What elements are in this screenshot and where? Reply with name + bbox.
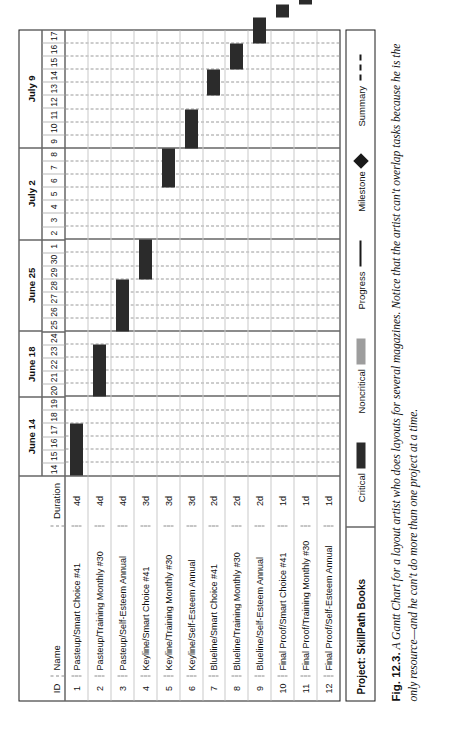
task-table: ID Name Duration 1Pasteup/Smart Choice #… bbox=[19, 475, 339, 700]
timeline-week-label: June 18 bbox=[19, 330, 41, 396]
gantt-chart: ID Name Duration 1Pasteup/Smart Choice #… bbox=[18, 29, 340, 701]
gantt-bar[interactable] bbox=[184, 109, 197, 148]
task-row[interactable]: 3Pasteup/Self-Esteem Annual4d bbox=[111, 476, 134, 700]
legend-item: Milestone bbox=[355, 155, 366, 212]
task-row[interactable]: 7Blueline/Smart Choice #412d bbox=[203, 476, 226, 700]
task-id: 1 bbox=[71, 676, 81, 700]
figure-caption: Fig. 12.3. A Gantt Chart for a layout ar… bbox=[387, 29, 420, 701]
timeline-row bbox=[294, 30, 317, 475]
figure-number: Fig. 12.3. bbox=[389, 652, 401, 701]
legend-item: Noncritical bbox=[355, 338, 366, 413]
task-duration: 3d bbox=[186, 476, 196, 526]
timeline-day-label: 28 bbox=[42, 278, 64, 291]
task-row[interactable]: 6Keyline/Self-Esteem Annual3d bbox=[180, 476, 203, 700]
task-name: Keyline/Training Monthly #30 bbox=[163, 526, 173, 676]
gantt-bar[interactable] bbox=[161, 148, 174, 187]
gantt-bar[interactable] bbox=[115, 279, 128, 331]
task-duration: 1d bbox=[323, 476, 333, 526]
timeline-bar-rows bbox=[65, 30, 339, 475]
task-row[interactable]: 8Blueline/Training Monthly #302d bbox=[225, 476, 248, 700]
chart-legend: CriticalNoncriticalProgressMilestoneSumm… bbox=[355, 30, 366, 526]
timeline-day-label: 12 bbox=[42, 94, 64, 107]
task-row[interactable]: 11Final Proof/Training Monthly #301d bbox=[294, 476, 317, 700]
task-row[interactable]: 2Pasteup/Training Monthly #304d bbox=[88, 476, 111, 700]
timeline: June 14June 18June 25July 2July 9 141516… bbox=[19, 30, 339, 475]
legend-label: Summary bbox=[355, 85, 366, 126]
gantt-bar[interactable] bbox=[230, 43, 243, 69]
column-header-id: ID bbox=[50, 676, 64, 700]
legend-label: Noncritical bbox=[355, 369, 366, 413]
timeline-day-label: 24 bbox=[42, 331, 64, 344]
task-name: Pasteup/Training Monthly #30 bbox=[94, 526, 104, 676]
task-name: Blueline/Training Monthly #30 bbox=[231, 526, 241, 676]
timeline-day-label: 13 bbox=[42, 81, 64, 94]
task-row[interactable]: 4Keyline/Smart Choice #413d bbox=[134, 476, 157, 700]
timeline-day-label: 9 bbox=[42, 134, 64, 147]
task-duration: 4d bbox=[71, 476, 81, 526]
timeline-day-label: 21 bbox=[42, 370, 64, 383]
task-name: Pasteup/Self-Esteem Annual bbox=[117, 526, 127, 676]
timeline-day-label: 16 bbox=[42, 436, 64, 449]
timeline-grid bbox=[65, 30, 339, 475]
task-id: 11 bbox=[300, 676, 310, 700]
task-id: 4 bbox=[140, 676, 150, 700]
task-row[interactable]: 12Final Proof/Self-Esteem Annual1d bbox=[317, 476, 339, 700]
timeline-day-label: 8 bbox=[42, 147, 64, 160]
timeline-row bbox=[111, 30, 134, 475]
task-name: Final Proof/Training Monthly #30 bbox=[300, 526, 310, 676]
task-duration: 2d bbox=[208, 476, 218, 526]
legend-label: Critical bbox=[355, 473, 366, 502]
timeline-day-label: 3 bbox=[42, 213, 64, 226]
gantt-bar[interactable] bbox=[92, 344, 105, 396]
task-row[interactable]: 1Pasteup/Smart Choice #414d bbox=[65, 476, 88, 700]
task-duration: 4d bbox=[117, 476, 127, 526]
task-duration: 3d bbox=[140, 476, 150, 526]
timeline-week-label: June 25 bbox=[19, 239, 41, 331]
figure-caption-text: A Gantt Chart for a layout artist who do… bbox=[389, 43, 418, 701]
gantt-bar[interactable] bbox=[299, 0, 312, 4]
column-header-duration: Duration bbox=[50, 476, 64, 526]
timeline-day-label: 11 bbox=[42, 108, 64, 121]
gantt-bar[interactable] bbox=[138, 239, 151, 278]
book-page: ID Name Duration 1Pasteup/Smart Choice #… bbox=[0, 0, 455, 729]
timeline-day-label: 22 bbox=[42, 357, 64, 370]
timeline-day-label: 26 bbox=[42, 304, 64, 317]
gantt-bar[interactable] bbox=[207, 69, 220, 95]
timeline-day-label: 5 bbox=[42, 186, 64, 199]
task-name: Keyline/Self-Esteem Annual bbox=[186, 526, 196, 676]
task-row[interactable]: 5Keyline/Training Monthly #303d bbox=[157, 476, 180, 700]
gantt-bar[interactable] bbox=[69, 423, 82, 475]
timeline-day-label: 30 bbox=[42, 252, 64, 265]
column-header-name: Name bbox=[50, 526, 64, 676]
timeline-day-label: 19 bbox=[42, 396, 64, 409]
task-row[interactable]: 9Blueline/Self-Esteem Annual2d bbox=[248, 476, 271, 700]
legend-item: Progress bbox=[355, 240, 366, 309]
gantt-bar[interactable] bbox=[253, 17, 266, 43]
legend-item: Critical bbox=[355, 442, 366, 502]
task-name: Pasteup/Smart Choice #41 bbox=[71, 526, 81, 676]
gantt-bar[interactable] bbox=[276, 4, 289, 17]
timeline-day-label: 23 bbox=[42, 344, 64, 357]
legend-label: Progress bbox=[355, 271, 366, 309]
timeline-day-label: 15 bbox=[42, 449, 64, 462]
timeline-day-label: 6 bbox=[42, 173, 64, 186]
timeline-row bbox=[180, 30, 203, 475]
task-id: 9 bbox=[254, 676, 264, 700]
timeline-day-label: 29 bbox=[42, 265, 64, 278]
task-id: 7 bbox=[208, 676, 218, 700]
task-row[interactable]: 10Final Proof/Smart Choice #411d bbox=[271, 476, 294, 700]
timeline-day-label: 4 bbox=[42, 199, 64, 212]
timeline-week-header: June 14June 18June 25July 2July 9 bbox=[19, 30, 42, 475]
timeline-day-label: 14 bbox=[42, 462, 64, 475]
milestone-icon bbox=[352, 152, 368, 168]
task-name: Keyline/Smart Choice #41 bbox=[140, 526, 150, 676]
timeline-row bbox=[65, 30, 88, 475]
timeline-day-label: 1 bbox=[42, 239, 64, 252]
task-duration: 1d bbox=[300, 476, 310, 526]
noncritical-icon bbox=[356, 338, 365, 364]
task-id: 2 bbox=[94, 676, 104, 700]
timeline-day-label: 17 bbox=[42, 30, 64, 42]
timeline-row bbox=[157, 30, 180, 475]
task-id: 6 bbox=[186, 676, 196, 700]
task-id: 8 bbox=[231, 676, 241, 700]
